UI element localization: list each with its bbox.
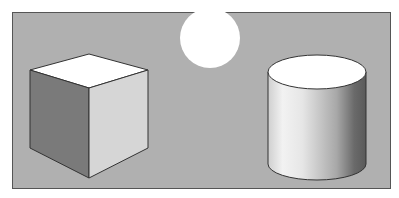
cylinder [268, 55, 366, 180]
sun-disc [180, 8, 240, 68]
cylinder-top-face [268, 55, 366, 89]
illustration [0, 0, 399, 198]
